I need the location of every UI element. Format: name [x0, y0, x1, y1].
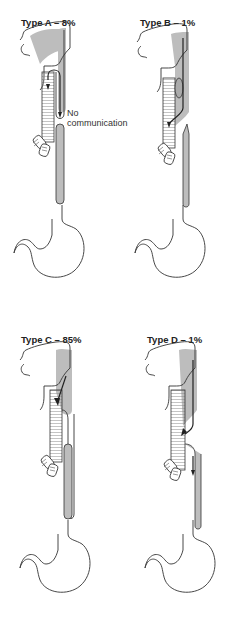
type-b-illustration [121, 0, 242, 300]
panel-type-b: Type B – 1% [121, 0, 242, 300]
panel-type-c: Type C – 85% [0, 320, 121, 620]
type-a-illustration [0, 0, 121, 300]
panel-type-a: Type A – 8% No communication [0, 0, 121, 300]
type-c-illustration [0, 320, 121, 620]
panel-type-d: Type D – 1% [121, 320, 242, 620]
no-communication-label: No communication [67, 108, 128, 128]
type-d-illustration [121, 320, 242, 620]
